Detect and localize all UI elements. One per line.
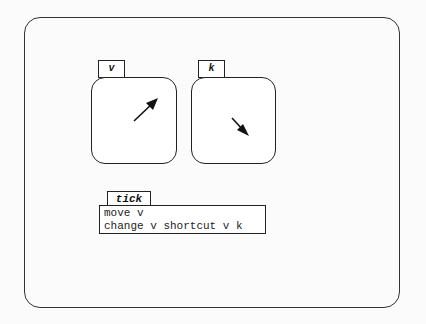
procedure-tick-body[interactable]: move v change v shortcut v k xyxy=(99,205,266,234)
variable-k-box[interactable] xyxy=(191,77,276,164)
variable-v-box[interactable] xyxy=(91,77,177,164)
arrow-down-right-icon xyxy=(192,78,277,165)
procedure-line: move v xyxy=(104,207,261,220)
procedure-line: change v shortcut v k xyxy=(104,220,261,233)
variable-v-label: v xyxy=(98,60,125,78)
variable-k-label: k xyxy=(198,60,225,78)
arrow-up-right-icon xyxy=(92,78,178,165)
